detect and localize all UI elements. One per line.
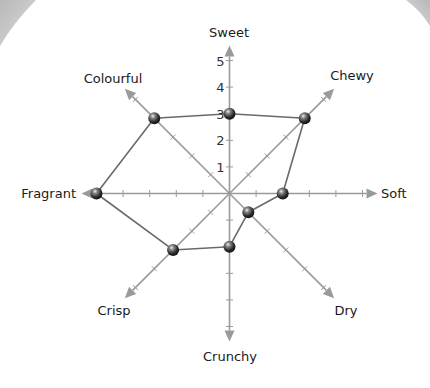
- radial-tick-label: 2: [216, 133, 224, 148]
- data-point-crisp: [167, 244, 179, 256]
- radial-tick-label: 5: [216, 54, 224, 69]
- axis-label-dry: Dry: [334, 303, 357, 318]
- data-markers: [91, 108, 311, 256]
- data-point-fragrant: [91, 188, 103, 200]
- arrowhead-icon: [225, 331, 235, 342]
- series-outline: [97, 114, 305, 250]
- axis-fragrant: [82, 189, 230, 199]
- axis-crunchy: [225, 194, 235, 342]
- data-point-sweet: [224, 108, 236, 120]
- data-point-colourful: [148, 112, 160, 124]
- axis-label-soft: Soft: [381, 186, 407, 201]
- axis-labels: SweetChewySoftDryCrunchyCrispFragrantCol…: [21, 25, 406, 364]
- axis-label-crunchy: Crunchy: [203, 349, 257, 364]
- arrowhead-icon: [367, 189, 378, 199]
- axis-chewy: [230, 89, 335, 194]
- axis-label-chewy: Chewy: [330, 68, 374, 83]
- data-point-chewy: [299, 112, 311, 124]
- data-polygon: [97, 114, 305, 250]
- radial-tick-label: 3: [216, 107, 224, 122]
- radar-chart: SweetChewySoftDryCrunchyCrispFragrantCol…: [0, 0, 430, 388]
- axis-label-sweet: Sweet: [209, 25, 249, 40]
- data-point-soft: [277, 188, 289, 200]
- axis-label-crisp: Crisp: [97, 303, 130, 318]
- corner-shade-right: [406, 0, 430, 26]
- corner-shade-left: [0, 0, 36, 46]
- axis-label-fragrant: Fragrant: [21, 186, 76, 201]
- axis-colourful: [125, 89, 230, 194]
- data-point-crunchy: [224, 241, 236, 253]
- data-point-dry: [242, 206, 254, 218]
- radial-tick-label: 4: [216, 80, 224, 95]
- axes: [82, 46, 378, 342]
- radial-tick-label: 1: [216, 160, 224, 175]
- arrowhead-icon: [225, 46, 235, 57]
- axis-label-colourful: Colourful: [84, 71, 143, 86]
- axis-soft: [230, 189, 378, 199]
